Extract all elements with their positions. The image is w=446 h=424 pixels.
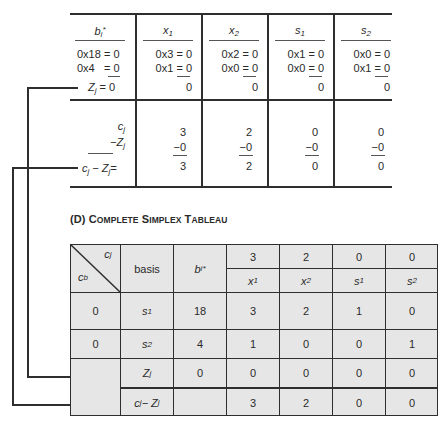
var-header-x1: x1	[227, 269, 279, 292]
zj-value-x2: −0	[206, 141, 252, 153]
cj-value-s1: 0	[272, 126, 318, 138]
bi-header: bi*	[174, 245, 226, 292]
coef-value: 2	[280, 293, 332, 329]
coef-value: 0	[333, 330, 385, 358]
x1-total: 0	[140, 81, 192, 93]
coef-value: 1	[386, 330, 438, 358]
connector-line	[12, 167, 78, 169]
header-x1: x1	[143, 24, 193, 40]
s2-calc-line: 0x0 = 0	[338, 48, 390, 60]
diff-rule	[305, 155, 319, 156]
zj-value-x1: −0	[140, 141, 186, 153]
x2-calc-line: 0x2 = 0	[206, 48, 258, 60]
cb-value: 0	[71, 330, 120, 358]
cj-value: 3	[227, 245, 279, 268]
zj-total: Zj = 0	[88, 81, 115, 97]
header-underline	[341, 40, 391, 41]
s1-calc-line: 0x0 = 0	[272, 62, 324, 74]
s2-calc-line: 0x1 = 0	[338, 62, 390, 74]
coef-value: 0	[280, 330, 332, 358]
header-underline	[209, 40, 259, 41]
net-value: 2	[280, 389, 332, 416]
bi-calc-line: 0x18 = 0	[77, 48, 120, 60]
header-underline	[143, 40, 193, 41]
cj-value: 2	[280, 245, 332, 268]
zj-label: Zj	[121, 359, 173, 387]
cj-minus-zj-label: cj − Zj	[121, 389, 173, 416]
basis-variable: s2	[121, 330, 173, 358]
cb-value: 0	[71, 293, 120, 329]
top-table-bottom-rule	[70, 186, 392, 188]
sum-rule	[309, 76, 322, 77]
bi-value: 4	[174, 330, 226, 358]
x2-calc-line: 0x0 = 0	[206, 62, 258, 74]
bi-calc-line: 0x4 = 0	[77, 62, 120, 74]
cj-value-s2: 0	[338, 126, 384, 138]
top-table-top-rule	[70, 13, 392, 15]
corner-cj-label: cj	[100, 247, 116, 261]
cj-minus-zj-label: cj − Zj=	[82, 162, 117, 178]
header-bi: bi*	[75, 24, 125, 41]
top-table-col-divider	[333, 13, 335, 188]
var-header-x2: x2	[280, 269, 332, 292]
net-value: 3	[227, 389, 279, 416]
diff-rule	[173, 155, 187, 156]
header-s2: s2	[341, 24, 391, 40]
bi-value: 0	[174, 359, 226, 387]
cj-value: 0	[333, 245, 385, 268]
minus-zj-label: −Zj	[80, 136, 125, 152]
basis-header: basis	[121, 245, 173, 292]
coef-value: 0	[386, 293, 438, 329]
diff-value-s2: 0	[338, 160, 384, 172]
zj-value: 0	[386, 359, 438, 387]
s2-total: 0	[338, 81, 390, 93]
cj-value: 0	[386, 245, 438, 268]
net-value: 0	[333, 389, 385, 416]
header-x2: x2	[209, 24, 259, 40]
cj-value-x2: 2	[206, 126, 252, 138]
x2-total: 0	[206, 81, 258, 93]
top-table-col-divider	[135, 13, 137, 188]
zj-value: 0	[280, 359, 332, 387]
top-table-col-divider	[201, 13, 203, 188]
sum-rule	[375, 76, 388, 77]
diff-rule	[371, 155, 385, 156]
diff-value-x2: 2	[206, 160, 252, 172]
s1-calc-line: 0x1 = 0	[272, 48, 324, 60]
diff-rule	[239, 155, 253, 156]
basis-variable: s1	[121, 293, 173, 329]
coef-value: 1	[333, 293, 385, 329]
net-value: 0	[386, 389, 438, 416]
connector-line	[12, 167, 14, 405]
sum-rule	[108, 76, 120, 77]
cj-label: cj	[80, 120, 125, 136]
sum-rule	[243, 76, 256, 77]
diff-value-x1: 3	[140, 160, 186, 172]
zj-value-s1: −0	[272, 141, 318, 153]
var-header-s2: s2	[386, 269, 438, 292]
s1-total: 0	[272, 81, 324, 93]
coef-value: 1	[227, 330, 279, 358]
cj-value-x1: 3	[140, 126, 186, 138]
zj-value: 0	[333, 359, 385, 387]
coef-value: 3	[227, 293, 279, 329]
corner-cb-label: cb	[75, 270, 91, 284]
bi-value: 18	[174, 293, 226, 329]
zj-value: 0	[227, 359, 279, 387]
header-s1: s1	[275, 24, 325, 40]
connector-line	[27, 87, 29, 377]
diff-value-s1: 0	[272, 160, 318, 172]
header-underline	[275, 40, 325, 41]
var-header-s1: s1	[333, 269, 385, 292]
top-table-col-divider	[267, 13, 269, 188]
x1-calc-line: 0x1 = 0	[140, 62, 192, 74]
connector-line	[27, 87, 78, 89]
diff-rule	[88, 153, 113, 154]
zj-value-s2: −0	[338, 141, 384, 153]
sum-rule	[177, 76, 190, 77]
x1-calc-line: 0x3 = 0	[140, 48, 192, 60]
top-table-mid-rule	[70, 99, 392, 101]
section-title: (D) COMPLETE SIMPLEX TABLEAU	[70, 213, 227, 225]
